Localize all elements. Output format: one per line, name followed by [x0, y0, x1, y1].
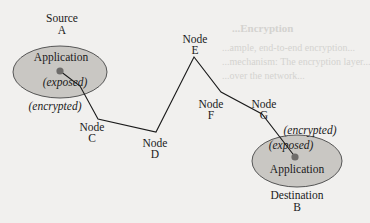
- node-id: E: [183, 45, 208, 56]
- node-c-label: Node C: [80, 122, 105, 144]
- destination-app-label: Application: [270, 164, 324, 175]
- destination-title: Destination: [270, 190, 323, 201]
- destination-encrypted-label: (encrypted): [284, 125, 337, 136]
- source-id: A: [58, 25, 66, 36]
- destination-id: B: [293, 202, 301, 213]
- node-g-label: Node G: [252, 99, 277, 121]
- source-encrypted-label: (encrypted): [29, 101, 82, 112]
- node-id: G: [252, 110, 277, 121]
- destination-exposed-label: (exposed): [269, 140, 314, 151]
- source-endpoint-dot: [56, 67, 63, 74]
- node-id: D: [143, 149, 168, 160]
- node-id: C: [80, 133, 105, 144]
- source-exposed-label: (exposed): [43, 77, 88, 88]
- node-id: F: [199, 110, 224, 121]
- destination-endpoint-dot: [291, 153, 298, 160]
- node-e-label: Node E: [183, 34, 208, 56]
- node-f-label: Node F: [199, 99, 224, 121]
- node-d-label: Node D: [143, 138, 168, 160]
- source-title: Source: [46, 13, 78, 24]
- source-app-label: Application: [34, 52, 88, 63]
